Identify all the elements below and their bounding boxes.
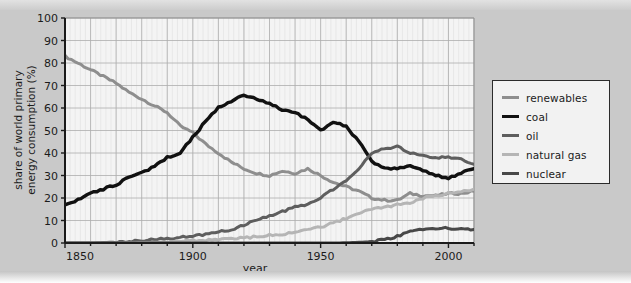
y-tick-label: 20: [44, 192, 58, 205]
legend-item-coal[interactable]: coal: [493, 107, 609, 126]
x-tick-label: 1850: [66, 250, 94, 263]
y-axis-title-line1: share of world primary: [12, 70, 24, 189]
chart-legend: renewablescoaloilnatural gasnuclear: [492, 80, 610, 184]
y-tick-label: 30: [44, 170, 58, 183]
legend-item-natural-gas[interactable]: natural gas: [493, 145, 609, 164]
y-tick-label: 40: [44, 147, 58, 160]
y-tick-label: 100: [37, 12, 58, 25]
legend-swatch-oil-icon: [502, 134, 519, 137]
x-tick-label: 1950: [307, 250, 335, 263]
legend-item-nuclear[interactable]: nuclear: [493, 164, 609, 183]
y-tick-label: 10: [44, 215, 58, 228]
legend-swatch-natural-gas-icon: [502, 153, 519, 156]
legend-label: coal: [526, 111, 548, 123]
legend-item-renewables[interactable]: renewables: [493, 88, 609, 107]
legend-swatch-nuclear-icon: [502, 172, 519, 175]
legend-label: natural gas: [526, 149, 587, 161]
legend-item-oil[interactable]: oil: [493, 126, 609, 145]
y-tick-label: 70: [44, 80, 58, 93]
y-tick-label: 0: [51, 237, 58, 250]
legend-label: nuclear: [526, 168, 566, 180]
y-axis-title-line2: energy consumption (%): [25, 65, 37, 194]
y-tick-labels: 0102030405060708090100: [37, 12, 58, 250]
legend-label: oil: [526, 130, 539, 142]
y-tick-label: 90: [44, 35, 58, 48]
x-axis-title: year: [243, 262, 268, 275]
x-tick-label: 2000: [434, 250, 462, 263]
legend-label: renewables: [526, 92, 587, 104]
legend-swatch-coal-icon: [502, 115, 519, 118]
y-tick-label: 60: [44, 102, 58, 115]
legend-swatch-renewables-icon: [502, 96, 519, 99]
x-tick-label: 1900: [179, 250, 207, 263]
y-tick-label: 50: [44, 125, 58, 138]
figure-canvas: 0102030405060708090100 1850190019502000 …: [0, 0, 631, 283]
y-tick-label: 80: [44, 57, 58, 70]
